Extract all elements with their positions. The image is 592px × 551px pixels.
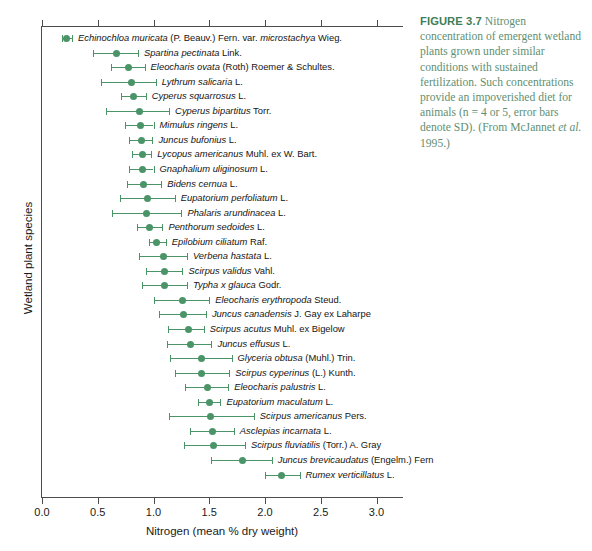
data-point-marker[interactable] [138, 137, 145, 144]
species-label: Juncus bufonius L. [158, 133, 236, 147]
data-point-marker[interactable] [278, 472, 285, 479]
data-point-marker[interactable] [207, 413, 214, 420]
data-row[interactable]: Verbena hastata L. [0, 250, 410, 264]
data-point-marker[interactable] [209, 428, 216, 435]
data-row[interactable]: Scirpus fluviatilis (Torr.) A. Gray [0, 439, 410, 453]
error-bar-cap-high [245, 442, 246, 449]
species-label: Scirpus cyperinus (L.) Kunth. [235, 366, 355, 380]
error-bar-cap-low [120, 195, 121, 202]
data-point-marker[interactable] [128, 79, 135, 86]
error-bar-cap-low [159, 311, 160, 318]
data-point-marker[interactable] [139, 166, 146, 173]
data-row[interactable]: Juncus effusus L. [0, 338, 410, 352]
error-bar-cap-low [154, 297, 155, 304]
species-label: Cyperus bipartitus Torr. [175, 104, 271, 118]
species-label: Juncus brevicaudatus (Engelm.) Fern [278, 453, 434, 467]
error-bar-cap-low [106, 108, 107, 115]
data-point-marker[interactable] [136, 108, 143, 115]
data-row[interactable]: Juncus canadensis J. Gay ex Laharpe [0, 308, 410, 322]
x-axis-title: Nitrogen (mean % dry weight) [41, 525, 403, 537]
species-label: Lycopus americanus Muhl. ex W. Bart. [157, 147, 317, 161]
species-label: Scirpus americanus Pers. [260, 409, 367, 423]
data-row[interactable]: Bidens cernua L. [0, 178, 410, 192]
data-row[interactable]: Penthorum sedoides L. [0, 221, 410, 235]
species-label: Scirpus fluviatilis (Torr.) A. Gray [251, 438, 381, 452]
data-point-marker[interactable] [143, 210, 150, 217]
error-bar-cap-low [167, 341, 168, 348]
error-bar-cap-low [132, 151, 133, 158]
data-point-marker[interactable] [137, 122, 144, 129]
data-row[interactable]: Lycopus americanus Muhl. ex W. Bart. [0, 148, 410, 162]
data-row[interactable]: Typha x glauca Godr. [0, 279, 410, 293]
error-bar-cap-low [211, 457, 212, 464]
error-bar-cap-high [156, 79, 157, 86]
data-point-marker[interactable] [210, 442, 217, 449]
data-row[interactable]: Eupatorium perfoliatum L. [0, 192, 410, 206]
data-row[interactable]: Phalaris arundinacea L. [0, 207, 410, 221]
data-point-marker[interactable] [130, 93, 137, 100]
data-point-marker[interactable] [198, 355, 205, 362]
data-row[interactable]: Eupatorium maculatum L. [0, 396, 410, 410]
data-point-marker[interactable] [239, 457, 246, 464]
error-bar-cap-high [182, 268, 183, 275]
data-point-marker[interactable] [160, 253, 167, 260]
species-label: Eleocharis erythropoda Steud. [215, 293, 341, 307]
error-bar-cap-low [169, 413, 170, 420]
data-row[interactable]: Gnaphalium uliginosum L. [0, 163, 410, 177]
data-point-marker[interactable] [179, 297, 186, 304]
error-bar-cap-high [229, 370, 230, 377]
species-label: Eleocharis ovata (Roth) Roemer & Schulte… [151, 60, 335, 74]
error-bar-cap-high [146, 93, 147, 100]
data-point-marker[interactable] [187, 341, 194, 348]
data-row[interactable]: Eleocharis palustris L. [0, 381, 410, 395]
data-row[interactable]: Scirpus acutus Muhl. ex Bigelow [0, 323, 410, 337]
data-row[interactable]: Mimulus ringens L. [0, 119, 410, 133]
data-point-marker[interactable] [161, 282, 168, 289]
error-bar-cap-low [127, 181, 128, 188]
error-bar-cap-low [170, 355, 171, 362]
species-label: Scirpus validus Vahl. [188, 264, 274, 278]
error-bar-cap-high [220, 399, 221, 406]
data-point-marker[interactable] [204, 384, 211, 391]
data-row[interactable]: Scirpus cyperinus (L.) Kunth. [0, 367, 410, 381]
data-point-marker[interactable] [198, 370, 205, 377]
species-label: Eleocharis palustris L. [234, 380, 326, 394]
data-point-marker[interactable] [185, 326, 192, 333]
data-point-marker[interactable] [144, 195, 151, 202]
data-row[interactable]: Juncus brevicaudatus (Engelm.) Fern [0, 454, 410, 468]
data-point-marker[interactable] [63, 35, 70, 42]
error-bar-cap-high [181, 210, 182, 217]
error-bar-cap-low [93, 50, 94, 57]
data-row[interactable]: Lythrum salicaria L. [0, 76, 410, 90]
species-label: Phalaris arundinacea L. [187, 206, 286, 220]
species-label: Spartina pectinata Link. [144, 46, 242, 60]
data-row[interactable]: Scirpus validus Vahl. [0, 265, 410, 279]
error-bar-cap-low [101, 79, 102, 86]
data-row[interactable]: Asclepias incarnata L. [0, 425, 410, 439]
data-row[interactable]: Cyperus bipartitus Torr. [0, 105, 410, 119]
data-point-marker[interactable] [153, 239, 160, 246]
data-series-layer: Echinochloa muricata (P. Beauv.) Fern. v… [0, 0, 410, 551]
data-point-marker[interactable] [180, 311, 187, 318]
figure-caption: FIGURE 3.7 Nitrogen concentration of eme… [420, 14, 582, 151]
data-row[interactable]: Eleocharis ovata (Roth) Roemer & Schulte… [0, 61, 410, 75]
data-point-marker[interactable] [139, 151, 146, 158]
data-row[interactable]: Juncus bufonius L. [0, 134, 410, 148]
data-point-marker[interactable] [146, 224, 153, 231]
data-row[interactable]: Glyceria obtusa (Muhl.) Trin. [0, 352, 410, 366]
data-row[interactable]: Rumex verticillatus L. [0, 469, 410, 483]
data-row[interactable]: Spartina pectinata Link. [0, 47, 410, 61]
figure-number: FIGURE 3.7 [420, 15, 482, 27]
data-point-marker[interactable] [140, 181, 147, 188]
data-row[interactable]: Echinochloa muricata (P. Beauv.) Fern. v… [0, 32, 410, 46]
data-row[interactable]: Scirpus americanus Pers. [0, 410, 410, 424]
error-bar-cap-high [206, 311, 207, 318]
data-row[interactable]: Cyperus squarrosus L. [0, 90, 410, 104]
data-point-marker[interactable] [125, 64, 132, 71]
data-point-marker[interactable] [161, 268, 168, 275]
data-point-marker[interactable] [113, 50, 120, 57]
data-point-marker[interactable] [206, 399, 213, 406]
data-row[interactable]: Eleocharis erythropoda Steud. [0, 294, 410, 308]
data-row[interactable]: Epilobium ciliatum Raf. [0, 236, 410, 250]
error-bar-cap-high [187, 253, 188, 260]
